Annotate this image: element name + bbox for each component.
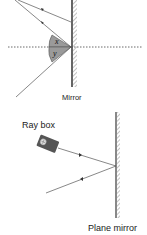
- arrow-icon: [80, 177, 83, 181]
- incident-ray: [58, 148, 116, 166]
- angle-y-label: y: [52, 49, 57, 58]
- angle-x-sector: [49, 35, 71, 47]
- upper-ray: [18, 0, 71, 22]
- diagram-law-of-reflection: x y Mirror: [8, 0, 142, 102]
- angle-x-label: x: [54, 37, 59, 46]
- reflection-diagrams: x y Mirror Ray box Plane mirror: [0, 0, 147, 235]
- diagram-ray-box: Ray box Plane mirror: [22, 112, 137, 233]
- ray-box-label: Ray box: [22, 120, 56, 130]
- plane-mirror-hatching: [117, 112, 120, 218]
- plane-mirror-label: Plane mirror: [88, 223, 137, 233]
- mirror-label: Mirror: [62, 93, 82, 102]
- mirror-hatching: [73, 0, 77, 87]
- mirror: [71, 0, 73, 87]
- arrow-icon: [79, 153, 82, 157]
- ray-box: [36, 134, 59, 153]
- reflected-ray: [16, 47, 71, 97]
- plane-mirror: [115, 112, 117, 218]
